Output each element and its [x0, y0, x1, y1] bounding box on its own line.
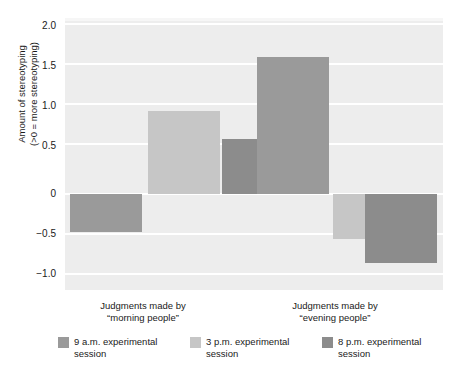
legend-item-3pm: 3 p.m. experimental session	[190, 336, 289, 359]
y-tick-label: −0.5	[36, 228, 56, 239]
y-tick-label: 0	[50, 188, 56, 199]
bar-evening-9am	[257, 57, 329, 194]
category-label-evening: Judgments made by “evening people”	[250, 300, 420, 324]
plot-area	[65, 18, 443, 290]
chart-legend: 9 a.m. experimental session 3 p.m. exper…	[0, 336, 454, 368]
chart-figure: Amount of stereotyping (>0 = more stereo…	[0, 0, 454, 368]
y-tick-label: 1.5	[42, 60, 56, 71]
legend-label-8pm: 8 p.m. experimental session	[338, 336, 421, 359]
y-axis-tick-labels: 2.0 1.5 1.0 0.5 0 −0.5 −1.0	[0, 0, 62, 368]
y-tick-label: −1.0	[36, 268, 56, 279]
plot-top-edge	[65, 18, 443, 21]
legend-item-9am: 9 a.m. experimental session	[58, 336, 157, 359]
category-label-morning: Judgments made by “morning people”	[58, 300, 228, 324]
bar-morning-9am	[70, 194, 142, 232]
gridline-2.0	[65, 23, 443, 25]
legend-label-3pm: 3 p.m. experimental session	[206, 336, 289, 359]
y-tick-label: 0.5	[42, 140, 56, 151]
legend-swatch-3pm	[190, 337, 201, 348]
gridline-1.5	[65, 63, 443, 65]
bar-morning-3pm	[148, 111, 220, 194]
legend-swatch-9am	[58, 337, 69, 348]
legend-swatch-8pm	[322, 337, 333, 348]
bar-evening-8pm	[365, 194, 437, 263]
y-tick-label: 1.0	[42, 100, 56, 111]
y-tick-label: 2.0	[42, 20, 56, 31]
legend-item-8pm: 8 p.m. experimental session	[322, 336, 421, 359]
gridline-1.0	[65, 103, 443, 105]
legend-label-9am: 9 a.m. experimental session	[74, 336, 157, 359]
gridline-neg1.0	[65, 273, 443, 275]
